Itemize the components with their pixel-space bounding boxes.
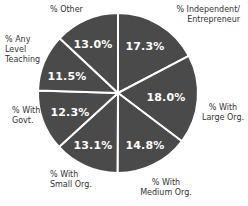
value-other: 13.0% — [73, 38, 112, 51]
label-medium-org: % With Medium Org. — [136, 178, 196, 198]
label-teaching: % Any Level Teaching — [5, 35, 40, 65]
label-govt: % With Govt. — [12, 106, 40, 126]
label-other: % Other — [50, 5, 83, 15]
value-small-org: 13.1% — [73, 139, 112, 152]
value-teaching: 11.5% — [47, 70, 86, 83]
value-govt: 12.3% — [50, 106, 89, 119]
value-independent: 17.3% — [125, 40, 164, 53]
label-independent: % Independent/ Entrepreneur — [176, 5, 240, 25]
value-large-org: 18.0% — [146, 91, 185, 104]
label-large-org: % With Large Org. — [200, 103, 246, 123]
value-medium-org: 14.8% — [125, 139, 164, 152]
label-small-org: % With Small Org. — [50, 170, 92, 190]
